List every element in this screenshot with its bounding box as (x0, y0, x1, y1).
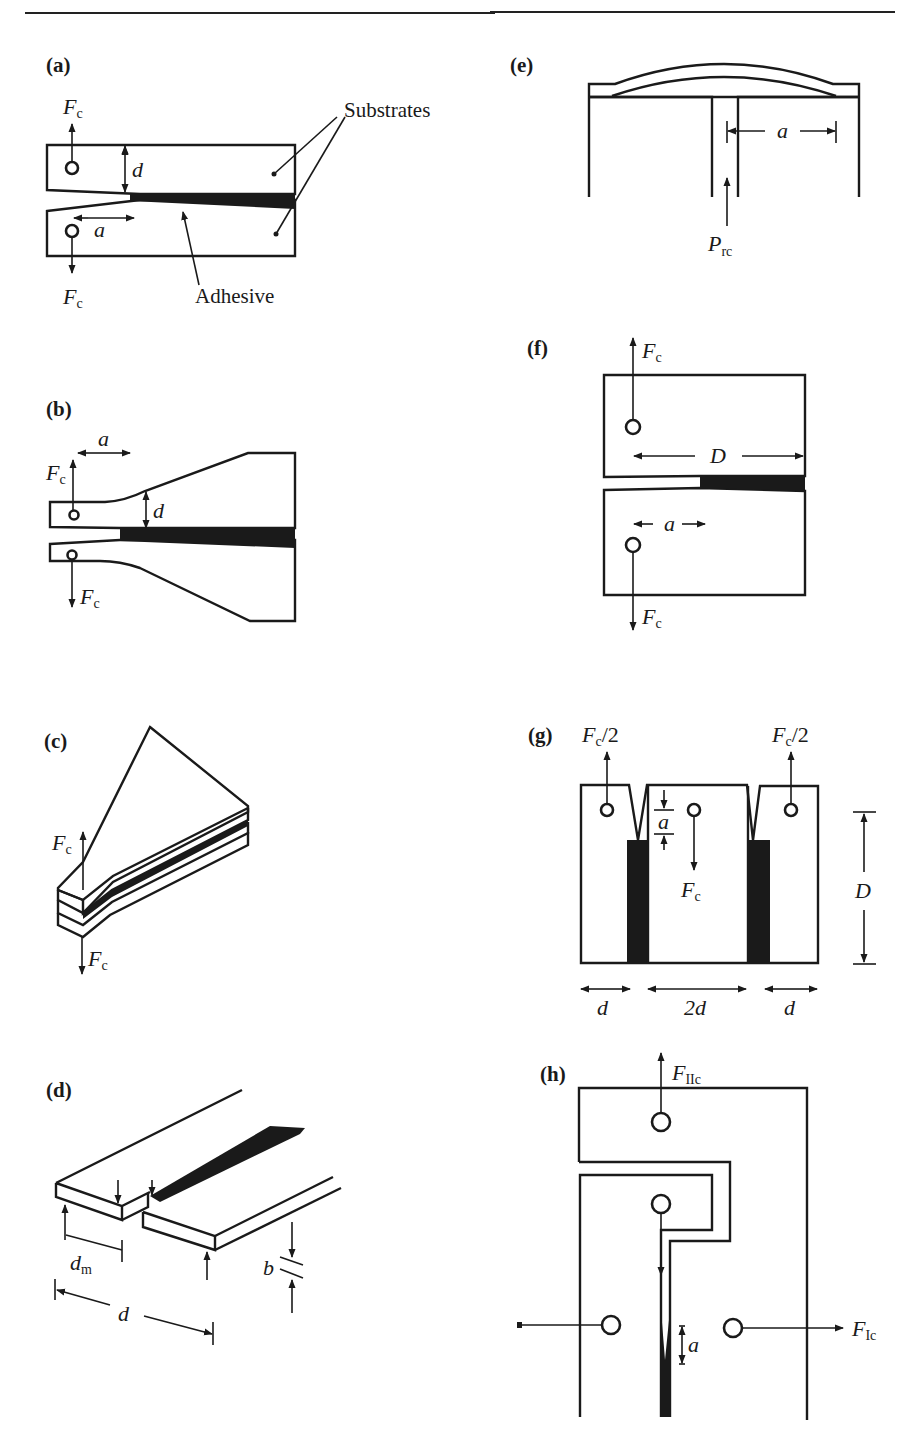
width-left-label: d (597, 995, 609, 1020)
panel-h-label: (h) (540, 1062, 566, 1086)
crack-length-label: a (664, 511, 675, 536)
substrate-top (50, 453, 295, 528)
crack-length-label: a (94, 217, 105, 242)
force-I-label: FIc (851, 1316, 876, 1343)
panel-e: (e) a Prc (510, 53, 859, 259)
thickness-label: d (132, 157, 144, 182)
force-label-bottom: Fc (62, 284, 83, 311)
pressure-label: Prc (707, 231, 732, 259)
panel-f-label: (f) (527, 336, 548, 360)
panel-b: (b) Fc Fc a d (45, 397, 295, 621)
force-label-right: Fc/2 (771, 722, 809, 749)
thickness-label: d (153, 498, 165, 523)
leader-adhesive (183, 212, 199, 285)
crack-length-label: a (688, 1332, 699, 1357)
blister-membrane (612, 77, 836, 96)
height-label: D (854, 878, 871, 903)
panel-h: (h) FIIc FIc a (517, 1053, 876, 1420)
panel-b-label: (b) (46, 397, 72, 421)
adhesive-strip (150, 1126, 305, 1202)
force-label-top: Fc (45, 460, 66, 487)
force-label-top: Fc (51, 830, 72, 857)
panel-d: (d) dm d (46, 1078, 341, 1345)
figure-svg: (a) Fc Fc d a (0, 0, 913, 1447)
adhesive-label: Adhesive (195, 284, 274, 308)
load-hole-bottom (66, 225, 78, 237)
width-label: D (709, 443, 726, 468)
d-dimension-right (144, 1316, 212, 1334)
top-plate (58, 727, 248, 913)
force-II-label: FIIc (671, 1060, 701, 1087)
panel-g-label: (g) (528, 723, 553, 747)
crack-length-label: a (777, 118, 788, 143)
width-right-label: d (784, 995, 796, 1020)
panel-a: (a) Fc Fc d a (46, 53, 430, 311)
force-label-top: Fc (62, 94, 83, 121)
load-hole-top (66, 162, 78, 174)
adhesive-right (748, 840, 770, 963)
panel-c-label: (c) (44, 729, 67, 753)
d-label: d (118, 1301, 130, 1326)
outer-frame (579, 1088, 807, 1420)
blister-right-block (738, 97, 859, 197)
force-label-left: Fc/2 (581, 722, 619, 749)
adhesive-layer (661, 1310, 670, 1417)
panel-g: (g) Fc/2 Fc/2 Fc a D (528, 722, 876, 1020)
substrates-label: Substrates (344, 98, 430, 122)
panel-c: (c) Fc Fc (44, 727, 248, 974)
panel-a-label: (a) (46, 53, 71, 77)
force-label-bottom: Fc (641, 604, 662, 631)
figure-page: (a) Fc Fc d a (0, 0, 913, 1447)
right-strip-top-edge (215, 1177, 333, 1236)
b-label: b (263, 1255, 274, 1280)
adhesive-layer (120, 528, 295, 548)
force-label-bottom: Fc (79, 584, 100, 611)
crack-length-label: a (98, 426, 109, 451)
dm-dimension (66, 1235, 122, 1250)
adhesive-left (627, 840, 648, 963)
right-strip-front (143, 1212, 215, 1250)
adhesive-layer (130, 193, 295, 209)
panel-f: (f) Fc Fc D a (527, 336, 805, 631)
force-label-center: Fc (680, 877, 701, 904)
left-strip-front (56, 1183, 122, 1220)
force-label-bottom: Fc (87, 946, 108, 973)
substrate-top (47, 145, 295, 194)
width-center-label: 2d (684, 995, 707, 1020)
force-label-top: Fc (641, 338, 662, 365)
inner-arm (580, 1175, 712, 1417)
blister-left-block (589, 97, 712, 197)
panel-d-label: (d) (46, 1078, 72, 1102)
dm-label: dm (70, 1250, 92, 1277)
d-dimension-left (57, 1290, 110, 1305)
panel-e-label: (e) (510, 53, 533, 77)
substrate-bottom (47, 200, 295, 256)
crack-length-label: a (658, 809, 669, 834)
leader-substrate-bottom (276, 117, 345, 234)
